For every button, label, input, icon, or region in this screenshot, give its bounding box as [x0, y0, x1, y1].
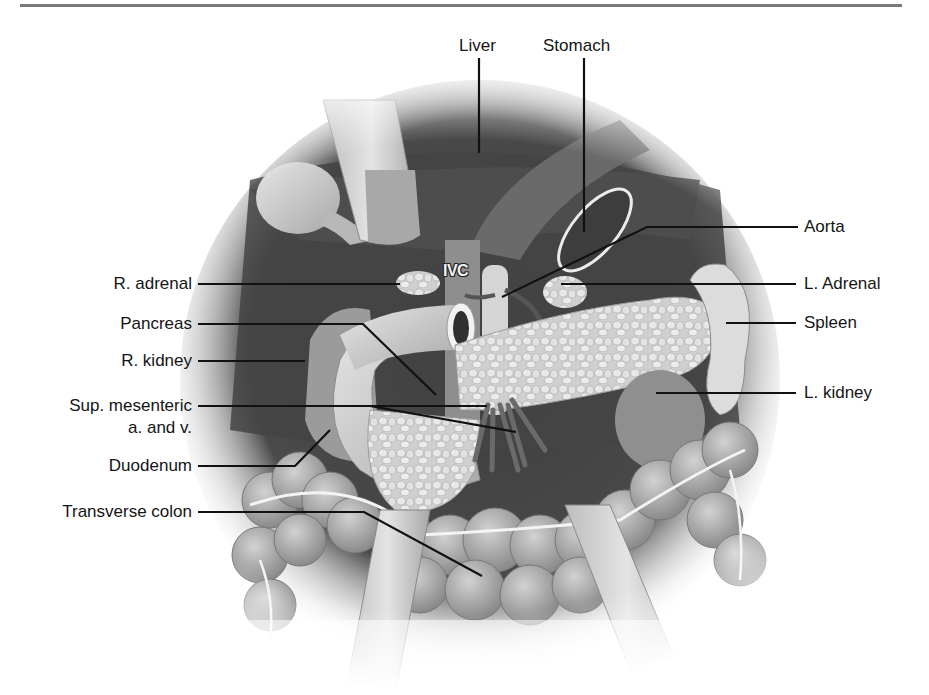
label-duodenum: Duodenum — [109, 456, 192, 476]
label-sup-mesenteric: Sup. mesenteric a. and v. — [69, 396, 192, 438]
label-aorta: Aorta — [804, 217, 845, 237]
label-transverse-colon: Transverse colon — [62, 502, 192, 522]
label-l-adrenal: L. Adrenal — [804, 274, 881, 294]
label-ivc: IVC — [443, 262, 468, 280]
anatomy-illustration — [0, 0, 929, 695]
label-r-adrenal: R. adrenal — [114, 274, 192, 294]
label-r-kidney: R. kidney — [121, 351, 192, 371]
label-sup-mesenteric-line2: a. and v. — [69, 418, 192, 438]
label-sup-mesenteric-line1: Sup. mesenteric — [69, 396, 192, 416]
label-stomach: Stomach — [543, 36, 610, 56]
label-pancreas: Pancreas — [120, 314, 192, 334]
label-spleen: Spleen — [804, 313, 857, 333]
label-l-kidney: L. kidney — [804, 383, 872, 403]
label-liver: Liver — [459, 36, 496, 56]
